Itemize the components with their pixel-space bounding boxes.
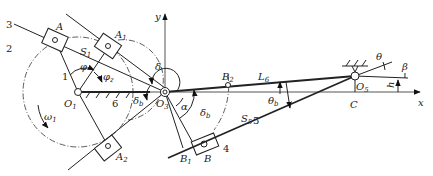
rocker-link-4 xyxy=(165,92,193,148)
label-link-6: 6 xyxy=(112,98,118,109)
label-O1: O1 xyxy=(64,98,77,111)
label-B1: B1 xyxy=(179,153,192,166)
label-B: B xyxy=(203,153,211,164)
label-phi-z: φz xyxy=(103,71,114,84)
label-link-1: 1 xyxy=(62,71,68,82)
slider-A xyxy=(42,28,69,52)
mechanism-diagram: 3 2 1 6 4 5 A A1 A2 O1 O3 O5 C B2 B B1 y… xyxy=(0,0,433,176)
label-theta: θ xyxy=(376,51,382,62)
label-beta: β xyxy=(401,61,408,72)
pivot-O5 xyxy=(351,72,359,80)
label-link-5: 5 xyxy=(253,115,259,126)
link-5 xyxy=(168,76,355,158)
label-delta-b-left: δb xyxy=(133,95,144,108)
pivot-O1 xyxy=(75,89,82,96)
label-delta: δ xyxy=(155,61,161,72)
label-S1: S1 xyxy=(80,46,91,59)
label-A2: A2 xyxy=(115,151,128,164)
slider-B xyxy=(191,133,218,155)
label-phi: φ xyxy=(80,61,87,72)
label-x-axis: x xyxy=(418,97,424,108)
label-alpha: α xyxy=(181,101,188,112)
label-omega1: ω1 xyxy=(44,111,57,124)
label-y-axis: y xyxy=(154,11,161,22)
label-delta-b-right: δb xyxy=(200,107,211,120)
label-h: h xyxy=(385,82,396,88)
label-C: C xyxy=(350,99,358,110)
label-theta-b: θb xyxy=(268,95,279,108)
label-S5: S5 xyxy=(241,113,253,126)
label-A: A xyxy=(55,21,63,32)
label-L6: L6 xyxy=(257,71,270,84)
label-link-2: 2 xyxy=(6,43,12,54)
label-link-4: 4 xyxy=(223,143,229,154)
label-link-3: 3 xyxy=(6,19,12,30)
